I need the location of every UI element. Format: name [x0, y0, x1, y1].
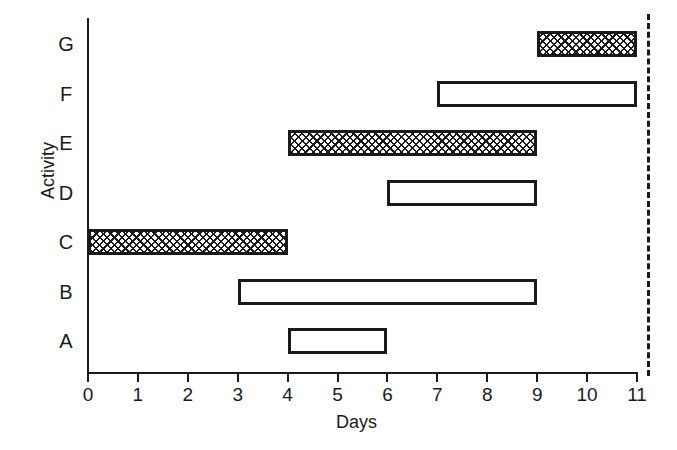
- x-tick-10: [586, 374, 588, 382]
- y-tick-label-a: A: [52, 329, 80, 353]
- x-tick-label-4: 4: [268, 384, 308, 406]
- x-tick-label-2: 2: [168, 384, 208, 406]
- x-tick-4: [287, 374, 289, 382]
- x-tick-label-3: 3: [218, 384, 258, 406]
- y-tick-label-b: B: [52, 280, 80, 304]
- x-tick-label-5: 5: [318, 384, 358, 406]
- y-axis-line: [87, 18, 89, 373]
- x-tick-5: [337, 374, 339, 382]
- y-tick-label-f: F: [52, 82, 80, 106]
- x-tick-label-1: 1: [118, 384, 158, 406]
- x-tick-2: [187, 374, 189, 382]
- x-tick-label-0: 0: [68, 384, 108, 406]
- gantt-bar-g[interactable]: [537, 31, 637, 57]
- gantt-chart: 01234567891011 ABCDEFG Days Activity: [0, 0, 677, 450]
- x-tick-3: [237, 374, 239, 382]
- y-tick-label-c: C: [52, 230, 80, 254]
- y-tick-label-g: G: [52, 32, 80, 56]
- x-tick-label-10: 10: [567, 384, 607, 406]
- x-tick-7: [436, 374, 438, 382]
- x-axis-line: [87, 372, 638, 374]
- gantt-bar-b[interactable]: [238, 279, 537, 305]
- gantt-bar-f[interactable]: [437, 81, 637, 107]
- gantt-bar-c[interactable]: [88, 229, 288, 255]
- x-tick-1: [137, 374, 139, 382]
- x-tick-8: [486, 374, 488, 382]
- gantt-bar-a[interactable]: [288, 328, 388, 354]
- x-tick-label-6: 6: [367, 384, 407, 406]
- x-tick-label-8: 8: [467, 384, 507, 406]
- x-tick-0: [87, 374, 89, 382]
- x-tick-label-11: 11: [617, 384, 657, 406]
- x-tick-label-7: 7: [417, 384, 457, 406]
- gantt-bar-e[interactable]: [288, 130, 538, 156]
- project-deadline-icon: [647, 14, 650, 376]
- x-tick-9: [536, 374, 538, 382]
- x-tick-11: [636, 374, 638, 382]
- x-tick-label-9: 9: [517, 384, 557, 406]
- x-axis-title-label: Days: [336, 412, 377, 432]
- x-axis-title: Days: [0, 412, 677, 433]
- gantt-bar-d[interactable]: [387, 180, 537, 206]
- y-axis-title: Activity: [38, 111, 59, 231]
- x-tick-6: [386, 374, 388, 382]
